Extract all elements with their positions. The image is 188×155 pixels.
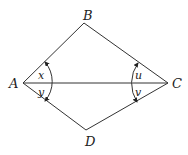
vertex-label-a: A bbox=[8, 76, 18, 91]
angle-label-u: u bbox=[135, 69, 142, 82]
kite-diagram: A B C D x y u v bbox=[0, 0, 188, 155]
vertex-label-b: B bbox=[82, 8, 93, 23]
edge-bc bbox=[84, 23, 168, 83]
angle-label-x: x bbox=[38, 69, 45, 82]
edge-ab bbox=[23, 23, 84, 83]
edge-cd bbox=[86, 83, 168, 130]
vertex-label-d: D bbox=[84, 134, 96, 149]
angle-label-y: y bbox=[37, 86, 45, 99]
vertex-label-c: C bbox=[172, 76, 182, 91]
edge-da bbox=[23, 83, 86, 130]
angle-label-v: v bbox=[135, 86, 142, 99]
angle-arc-a-icon bbox=[45, 62, 52, 101]
